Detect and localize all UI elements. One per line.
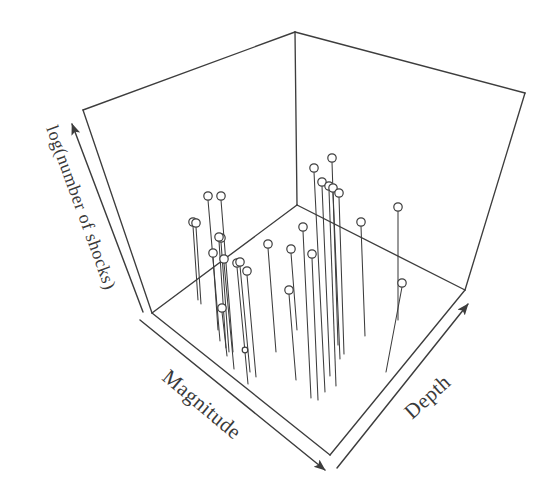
box-edge-floor-back-right bbox=[297, 205, 465, 290]
stem-line bbox=[312, 258, 318, 400]
stem-line bbox=[193, 226, 198, 300]
data-point-marker bbox=[287, 245, 295, 253]
figure-canvas: log(number of shocks) Magnitude Depth bbox=[0, 0, 552, 493]
data-point-marker bbox=[264, 240, 272, 248]
stem-line bbox=[329, 190, 336, 386]
box-edge-back-vertical bbox=[295, 32, 297, 205]
data-point-marker bbox=[328, 154, 336, 162]
data-point-marker bbox=[299, 223, 307, 231]
stem-line bbox=[196, 227, 201, 304]
stem-line bbox=[268, 248, 276, 352]
stem-line bbox=[237, 267, 248, 384]
stem-line bbox=[314, 172, 325, 392]
data-point-marker bbox=[308, 250, 316, 258]
data-point-marker bbox=[215, 233, 223, 241]
box-edge-top-right bbox=[295, 32, 525, 93]
data-point-marker bbox=[398, 279, 406, 287]
data-point-marker bbox=[285, 286, 293, 294]
data-point-marker bbox=[243, 267, 251, 275]
data-point-marker bbox=[236, 258, 244, 266]
data-point-marker bbox=[357, 218, 365, 226]
data-point-marker bbox=[204, 192, 212, 200]
3d-stem-plot: log(number of shocks) Magnitude Depth bbox=[0, 0, 552, 493]
data-point-marker bbox=[220, 255, 228, 263]
box-edge-top-left bbox=[83, 32, 295, 110]
data-point-marker bbox=[217, 192, 225, 200]
data-point-marker bbox=[310, 164, 318, 172]
stem-line bbox=[361, 226, 365, 336]
stem-line bbox=[247, 275, 256, 377]
axis-arrows bbox=[72, 124, 468, 470]
data-point-marker bbox=[242, 347, 248, 353]
y-axis-label: Depth bbox=[399, 370, 455, 424]
stem-line bbox=[386, 287, 402, 372]
data-point-marker bbox=[209, 249, 217, 257]
data-point-marker bbox=[218, 304, 226, 312]
x-axis-label: Magnitude bbox=[158, 364, 247, 444]
box-edge-right-vertical bbox=[465, 93, 525, 290]
data-point-marker bbox=[335, 189, 343, 197]
stem-line bbox=[213, 257, 218, 330]
stem-line bbox=[339, 197, 344, 354]
data-point-marker bbox=[394, 203, 402, 211]
stem-line bbox=[224, 263, 234, 369]
data-point-marker bbox=[192, 219, 200, 227]
